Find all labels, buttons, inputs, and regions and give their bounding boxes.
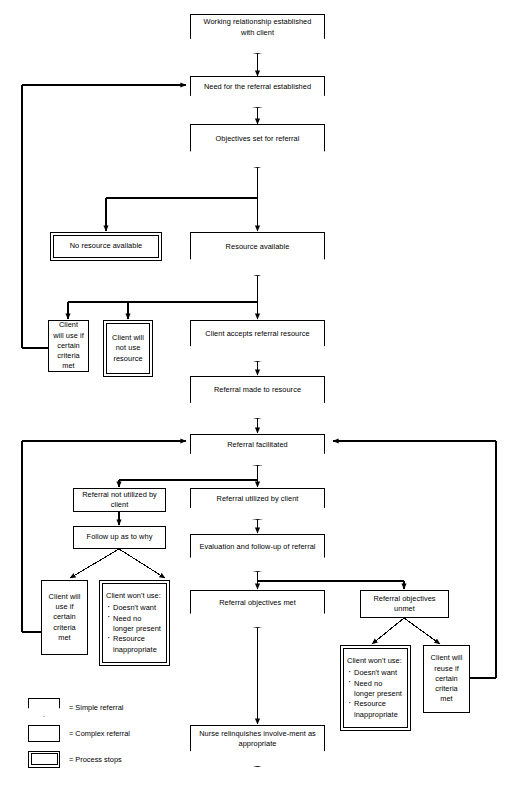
legend-item-simple-referral: = Simple referral bbox=[28, 694, 228, 720]
bullet-item: Resource inappropriate bbox=[106, 634, 163, 654]
wont-use-bullets: Doesn't want Need no longer present Reso… bbox=[347, 668, 404, 720]
node-label: Resource available bbox=[191, 242, 324, 252]
node-referral-facilitated[interactable]: Referral facilitated bbox=[190, 434, 325, 466]
legend-label: = Process stops bbox=[69, 755, 122, 764]
node-label: Client accepts referral resource bbox=[191, 329, 324, 339]
node-label: Follow up as to why bbox=[74, 532, 165, 542]
node-label: Objectives set for referral bbox=[191, 134, 324, 144]
bullet-item: Need no longer present bbox=[106, 614, 163, 634]
node-client-will-use-upper[interactable]: Client will use if certain criteria met bbox=[48, 320, 89, 372]
node-referral-not-utilized[interactable]: Referral not utilized by client bbox=[73, 488, 166, 512]
node-label: Working relationship established with cl… bbox=[191, 17, 324, 37]
node-referral-objectives-met[interactable]: Referral objectives met bbox=[190, 590, 325, 628]
node-label: Client will use if certain criteria met bbox=[42, 592, 87, 643]
legend: = Simple referral = Complex referral = P… bbox=[28, 694, 228, 772]
wont-use-content: Client won't use: Doesn't want Need no l… bbox=[102, 583, 167, 663]
node-label: Referral utilized by client bbox=[191, 494, 324, 504]
flowchart-canvas: Working relationship established with cl… bbox=[0, 0, 517, 796]
node-label: Need for the referral established bbox=[191, 82, 324, 92]
legend-item-process-stops: = Process stops bbox=[28, 746, 228, 772]
node-follow-up-as-to-why[interactable]: Follow up as to why bbox=[73, 526, 166, 549]
node-referral-objectives-unmet[interactable]: Referral objectives unmet bbox=[360, 590, 449, 618]
complex-referral-symbol-icon bbox=[28, 725, 60, 742]
node-client-will-use-lower[interactable]: Client will use if certain criteria met bbox=[41, 580, 88, 655]
node-label: Client will use if certain criteria met bbox=[49, 320, 88, 371]
node-objectives-set[interactable]: Objectives set for referral bbox=[190, 124, 325, 168]
simple-referral-symbol-icon bbox=[28, 698, 60, 717]
node-client-will-not-use-resource[interactable]: Client will not use resource bbox=[103, 320, 153, 377]
node-label: Referral objectives unmet bbox=[361, 594, 448, 614]
node-label: Evaluation and follow-up of referral bbox=[191, 542, 324, 552]
node-label: Client will reuse if certain criteria me… bbox=[424, 653, 469, 704]
bullet-item: Resource inappropriate bbox=[347, 699, 404, 719]
wont-use-content: Client won't use: Doesn't want Need no l… bbox=[343, 648, 408, 728]
node-resource-available[interactable]: Resource available bbox=[190, 232, 325, 276]
node-label: Referral objectives met bbox=[191, 598, 324, 608]
wont-use-heading: Client won't use: bbox=[347, 656, 404, 666]
legend-item-complex-referral: = Complex referral bbox=[28, 720, 228, 746]
node-client-accepts-referral[interactable]: Client accepts referral resource bbox=[190, 320, 325, 362]
legend-label: = Simple referral bbox=[69, 703, 123, 712]
node-need-established[interactable]: Need for the referral established bbox=[190, 76, 325, 108]
node-label: Referral not utilized by client bbox=[74, 490, 165, 510]
node-label: Referral facilitated bbox=[191, 440, 324, 450]
wont-use-bullets: Doesn't want Need no longer present Reso… bbox=[106, 603, 163, 655]
process-stops-symbol-icon bbox=[28, 751, 60, 768]
bullet-item: Doesn't want bbox=[106, 603, 163, 613]
bullet-item: Need no longer present bbox=[347, 679, 404, 699]
node-working-relationship[interactable]: Working relationship established with cl… bbox=[190, 14, 325, 54]
legend-label: = Complex referral bbox=[69, 729, 130, 738]
node-label: No resource available bbox=[53, 235, 159, 258]
node-referral-utilized-by-client[interactable]: Referral utilized by client bbox=[190, 488, 325, 520]
wont-use-heading: Client won't use: bbox=[106, 591, 163, 601]
node-label: Client will not use resource bbox=[106, 323, 150, 374]
node-evaluation-followup[interactable]: Evaluation and follow-up of referral bbox=[190, 534, 325, 572]
node-client-wont-use-left[interactable]: Client won't use: Doesn't want Need no l… bbox=[99, 580, 170, 666]
node-label: Referral made to resource bbox=[191, 385, 324, 395]
bullet-item: Doesn't want bbox=[347, 668, 404, 678]
node-client-wont-use-right[interactable]: Client won't use: Doesn't want Need no l… bbox=[340, 645, 411, 731]
node-referral-made-to-resource[interactable]: Referral made to resource bbox=[190, 376, 325, 419]
node-client-will-reuse[interactable]: Client will reuse if certain criteria me… bbox=[423, 645, 470, 713]
node-no-resource-available[interactable]: No resource available bbox=[50, 232, 162, 261]
